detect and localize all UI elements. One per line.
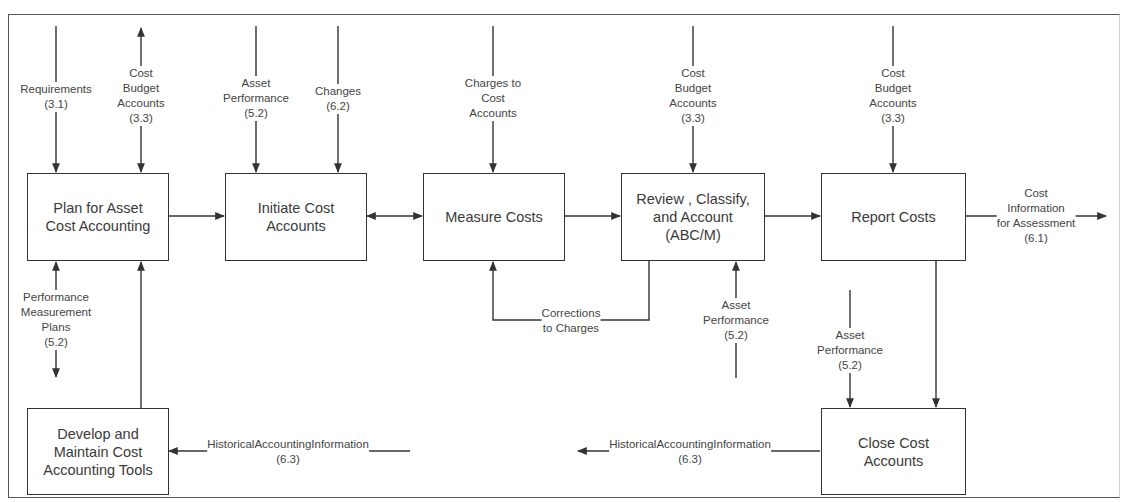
label-close-asset-perf: Asset Performance (5.2) xyxy=(817,328,883,373)
label-plan-budget: Cost Budget Accounts (3.3) xyxy=(117,66,164,126)
label-initiate-changes: Changes (6.2) xyxy=(315,84,361,114)
process-review-classify-account: Review , Classify, and Account (ABC/M) xyxy=(621,173,765,261)
label-corrections: Corrections to Charges xyxy=(542,306,601,336)
process-report-costs: Report Costs xyxy=(821,173,966,261)
process-initiate-cost-accounts: Initiate Cost Accounts xyxy=(225,173,367,261)
label-requirements: Requirements (3.1) xyxy=(20,82,92,112)
process-close-cost-accounts: Close Cost Accounts xyxy=(821,408,966,495)
label-hist-close: HistoricalAccountingInformation (6.3) xyxy=(609,437,771,467)
process-develop-maintain-tools: Develop and Maintain Cost Accounting Too… xyxy=(27,408,169,495)
label-review-asset-perf: Asset Performance (5.2) xyxy=(703,298,769,343)
label-perf-plans: Performance Measurement Plans (5.2) xyxy=(21,290,91,350)
process-plan-asset-cost-accounting: Plan for Asset Cost Accounting xyxy=(27,173,169,261)
label-initiate-asset-perf: Asset Performance (5.2) xyxy=(223,76,289,121)
label-review-budget: Cost Budget Accounts (3.3) xyxy=(669,66,716,126)
label-hist-develop: HistoricalAccountingInformation (6.3) xyxy=(207,437,369,467)
label-report-budget: Cost Budget Accounts (3.3) xyxy=(869,66,916,126)
label-cost-info: Cost Information for Assessment (6.1) xyxy=(997,186,1076,246)
label-charges: Charges to Cost Accounts xyxy=(465,76,521,121)
process-measure-costs: Measure Costs xyxy=(423,173,565,261)
